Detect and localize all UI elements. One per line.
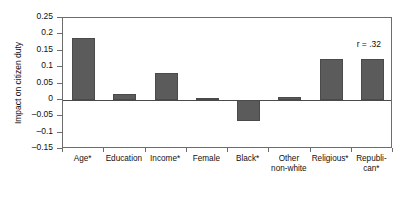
y-tick-label: 0.05 bbox=[36, 77, 53, 87]
y-tick-label: –0.1 bbox=[36, 126, 53, 136]
bar-0 bbox=[72, 38, 95, 100]
x-axis-label-1: Education bbox=[103, 154, 144, 164]
x-tick-1 bbox=[103, 148, 104, 152]
x-axis-label-5: Other non-white bbox=[268, 154, 309, 173]
correlation-annotation: r = .32 bbox=[357, 39, 381, 49]
bar-4 bbox=[237, 100, 260, 121]
x-axis-label-7: Republi- can* bbox=[351, 154, 392, 173]
x-tick-7 bbox=[351, 148, 352, 152]
y-tick-label: 0 bbox=[48, 93, 53, 103]
bar-chart: Impact on citizen duty 0.250.20.150.10.0… bbox=[0, 0, 401, 202]
x-axis-label-3: Female bbox=[186, 154, 227, 164]
y-tick-label: 0.1 bbox=[41, 60, 53, 70]
x-tick-6 bbox=[310, 148, 311, 152]
y-tick-label: –0.15 bbox=[32, 142, 53, 152]
y-tick-label: –0.05 bbox=[32, 109, 53, 119]
bar-5 bbox=[278, 97, 301, 100]
x-tick-2 bbox=[145, 148, 146, 152]
bar-1 bbox=[113, 94, 136, 100]
y-axis-title: Impact on citizen duty bbox=[13, 13, 23, 153]
x-tick-3 bbox=[186, 148, 187, 152]
y-tick-label: 0.2 bbox=[41, 27, 53, 37]
x-tick-5 bbox=[268, 148, 269, 152]
bar-2 bbox=[155, 73, 178, 100]
x-axis-label-2: Income* bbox=[145, 154, 186, 164]
x-axis-label-0: Age* bbox=[62, 154, 103, 164]
x-axis-label-4: Black* bbox=[227, 154, 268, 164]
x-axis-label-6: Religious* bbox=[310, 154, 351, 164]
bar-3 bbox=[196, 98, 219, 100]
y-tick-label: 0.15 bbox=[36, 44, 53, 54]
x-tick-0 bbox=[62, 148, 63, 152]
bar-7 bbox=[361, 59, 384, 100]
x-tick-4 bbox=[227, 148, 228, 152]
y-tick-label: 0.25 bbox=[36, 11, 53, 21]
zero-baseline bbox=[63, 100, 391, 101]
x-tick-end bbox=[392, 148, 393, 152]
plot-area: r = .32 bbox=[62, 17, 392, 148]
bar-6 bbox=[320, 59, 343, 100]
